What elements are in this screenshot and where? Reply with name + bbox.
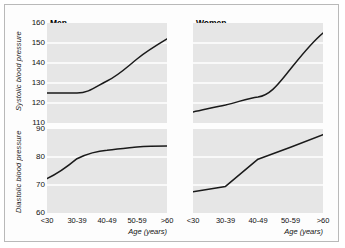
y-axis-label-systolic: Systolic blood pressure <box>14 21 23 121</box>
tick-90: 90 <box>36 125 45 133</box>
series-line-men-diastolic <box>47 146 167 179</box>
y-axis-ticks-systolic: 160 150 140 130 120 110 <box>23 23 45 123</box>
xtick-women-2: 40-49 <box>248 216 267 225</box>
panel-men-diastolic <box>47 129 167 213</box>
xtick-men-0: <30 <box>41 216 54 225</box>
tick-160: 160 <box>32 19 45 27</box>
gridlines <box>193 157 323 185</box>
xtick-men-2: 40-49 <box>97 216 116 225</box>
plot-men-diastolic <box>47 129 167 213</box>
series-line-men-systolic <box>47 39 167 93</box>
panel-women-diastolic <box>193 129 323 213</box>
tick-130: 130 <box>32 79 45 87</box>
plot-women-diastolic <box>193 129 323 213</box>
xtick-men-1: 30-39 <box>67 216 86 225</box>
plot-women-systolic <box>193 23 323 123</box>
y-axis-label-diastolic: Diastolic blood pressure <box>14 125 23 219</box>
panel-women-systolic <box>193 23 323 123</box>
panel-men-systolic <box>47 23 167 123</box>
tick-150: 150 <box>32 39 45 47</box>
tick-70: 70 <box>36 181 45 189</box>
x-axis-label-women: Age (years) <box>193 227 323 236</box>
xtick-men-4: >60 <box>161 216 174 225</box>
x-axis-label-men: Age (years) <box>47 227 167 236</box>
gridlines <box>193 43 323 103</box>
tick-140: 140 <box>32 59 45 67</box>
xtick-women-1: 30-39 <box>216 216 235 225</box>
xtick-men-3: 50-59 <box>127 216 146 225</box>
y-axis-ticks-diastolic: 90 80 70 60 <box>23 129 45 213</box>
xtick-women-3: 50-59 <box>281 216 300 225</box>
tick-120: 120 <box>32 99 45 107</box>
tick-80: 80 <box>36 153 45 161</box>
plot-men-systolic <box>47 23 167 123</box>
gridlines <box>47 43 167 103</box>
gridlines <box>47 157 167 185</box>
series-line-women-diastolic <box>193 135 323 192</box>
figure-frame: Systolic blood pressure Diastolic blood … <box>4 4 339 242</box>
series-line-women-systolic <box>193 33 323 112</box>
xtick-women-0: <30 <box>187 216 200 225</box>
xtick-women-4: >60 <box>317 216 330 225</box>
